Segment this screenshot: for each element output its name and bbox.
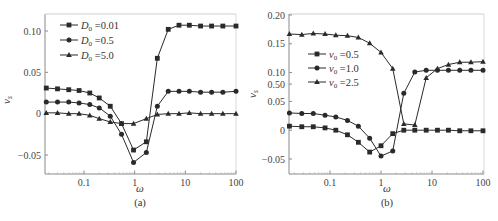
data-point-marker-square	[367, 150, 372, 155]
data-point-marker-square	[66, 87, 71, 92]
data-point-marker-circle	[166, 89, 171, 94]
legend-label: D0 =5.0	[80, 50, 114, 63]
data-point-marker-square	[311, 124, 316, 129]
data-point-marker-circle	[119, 132, 124, 137]
data-point-marker-square	[77, 88, 82, 93]
legend-item: v0 =2.5	[308, 77, 359, 90]
data-point-marker-square	[166, 27, 171, 32]
data-point-marker-square	[55, 86, 60, 91]
data-point-marker-square	[299, 124, 304, 129]
data-point-marker-square	[333, 128, 338, 133]
data-point-marker-circle	[187, 89, 192, 94]
series-square	[287, 124, 485, 155]
data-point-marker-circle	[345, 118, 350, 123]
legend-marker-square	[315, 52, 320, 57]
y-tick-label: 0.10	[24, 26, 42, 37]
x-tick-label: 10	[180, 177, 190, 188]
data-point-marker-circle	[379, 154, 384, 159]
series-line	[289, 33, 483, 125]
data-point-marker-circle	[401, 91, 406, 96]
series-line	[46, 25, 236, 150]
x-tick-label: 0.1	[78, 177, 91, 188]
series-circle	[44, 89, 239, 165]
legend-marker-circle	[67, 38, 72, 43]
legend-item: D0 =0.01	[60, 20, 119, 33]
data-point-marker-triangle	[187, 110, 193, 115]
data-point-marker-circle	[457, 68, 462, 73]
data-point-marker-square	[469, 128, 474, 133]
data-point-marker-circle	[198, 90, 203, 95]
y-tick-label: 0.20	[268, 10, 286, 21]
data-point-marker-circle	[87, 102, 92, 107]
series-triangle	[43, 110, 238, 126]
legend-item: v0 =1.0	[308, 63, 359, 76]
y-tick-label: 0	[280, 125, 285, 136]
y-tick-label-extra: 0.50	[268, 79, 286, 90]
panel-label: (b)	[381, 197, 394, 209]
y-axis-title: vs	[246, 90, 260, 98]
y-tick-label: −0.05	[262, 154, 285, 165]
x-axis-title: ω	[136, 182, 144, 194]
data-point-marker-circle	[144, 150, 149, 155]
data-point-marker-circle	[234, 89, 239, 94]
series-line	[46, 113, 236, 124]
y-tick-label: 0	[36, 108, 41, 119]
x-tick-label: 10	[427, 177, 437, 188]
data-point-marker-square	[435, 128, 440, 133]
data-point-marker-square	[220, 24, 225, 29]
data-point-marker-square	[155, 56, 160, 61]
x-tick-label: 100	[476, 177, 491, 188]
data-point-marker-circle	[155, 104, 160, 109]
data-point-marker-square	[198, 24, 203, 29]
data-point-marker-square	[209, 24, 214, 29]
data-point-marker-circle	[131, 160, 136, 165]
data-point-marker-circle	[66, 100, 71, 105]
series-triangle	[287, 31, 486, 128]
data-point-marker-square	[177, 23, 182, 28]
data-point-marker-circle	[97, 105, 102, 110]
data-point-marker-square	[187, 23, 192, 28]
y-tick-label: 0.05	[24, 67, 42, 78]
data-point-marker-square	[131, 148, 136, 153]
series-square	[44, 23, 239, 153]
data-point-marker-square	[323, 125, 328, 130]
data-point-marker-circle	[209, 90, 214, 95]
legend-item: v0 =0.5	[308, 49, 359, 62]
legend-item: D0 =5.0	[60, 50, 114, 63]
data-point-marker-circle	[44, 100, 49, 105]
data-point-marker-circle	[287, 110, 292, 115]
data-point-marker-circle	[55, 100, 60, 105]
legend-label: D0 =0.01	[80, 20, 119, 33]
legend-label: v0 =1.0	[329, 63, 359, 76]
data-point-marker-circle	[356, 124, 361, 129]
legend-label: D0 =0.5	[80, 35, 114, 48]
chart-panel-a: 0.100.050−0.050.1110100ωvs(a)D0 =0.01D0 …	[0, 14, 244, 209]
y-tick-label: −0.05	[18, 150, 41, 161]
data-point-marker-circle	[77, 100, 82, 105]
data-point-marker-square	[108, 104, 113, 109]
data-point-marker-circle	[220, 90, 225, 95]
series-line	[46, 91, 236, 162]
data-point-marker-square	[97, 96, 102, 101]
chart-panel-b: 0.200.150.100.050−0.050.500.1110100ωvs(b…	[246, 10, 491, 210]
x-tick-label: 0.1	[324, 177, 337, 188]
data-point-marker-square	[412, 128, 417, 133]
data-point-marker-circle	[424, 68, 429, 73]
data-point-marker-circle	[412, 70, 417, 75]
data-point-marker-circle	[468, 68, 473, 73]
y-tick-label: 0.15	[268, 38, 286, 49]
data-point-marker-square	[481, 128, 486, 133]
legend-marker-circle	[315, 66, 320, 71]
figure-canvas: 0.100.050−0.050.1110100ωvs(a)D0 =0.01D0 …	[0, 0, 498, 221]
data-point-marker-circle	[299, 111, 304, 116]
data-point-marker-square	[379, 143, 384, 148]
x-tick-label: 100	[229, 177, 244, 188]
data-point-marker-circle	[311, 111, 316, 116]
x-axis-title: ω	[383, 182, 391, 194]
panel-label: (a)	[134, 197, 146, 209]
data-point-marker-circle	[481, 68, 486, 73]
data-point-marker-square	[44, 86, 49, 91]
data-point-marker-square	[390, 131, 395, 136]
legend-label: v0 =2.5	[329, 77, 359, 90]
data-point-marker-square	[345, 132, 350, 137]
